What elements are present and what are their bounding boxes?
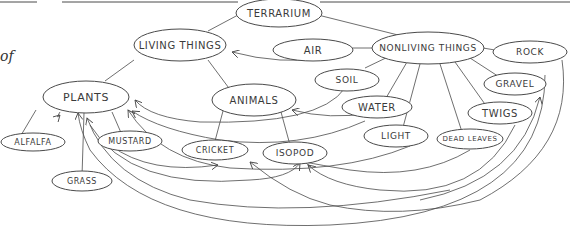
node-alfalfa[interactable]: ALFALFA: [1, 133, 65, 151]
node-plants[interactable]: PLANTS: [43, 81, 129, 113]
node-air[interactable]: AIR: [273, 39, 353, 61]
node-label: MUSTARD: [108, 137, 152, 146]
node-label: ISOPOD: [276, 148, 315, 158]
node-label: LIVING THINGS: [139, 40, 222, 51]
node-nonliving-things[interactable]: NONLIVING THINGS: [372, 32, 484, 64]
node-label: TERRARIUM: [246, 8, 311, 19]
node-isopod[interactable]: ISOPOD: [263, 142, 327, 164]
node-rock[interactable]: ROCK: [493, 41, 567, 63]
concept-map: TERRARIUM LIVING THINGS NONLIVING THINGS…: [0, 0, 570, 237]
node-mustard[interactable]: MUSTARD: [98, 131, 162, 151]
node-gravel[interactable]: GRAVEL: [484, 73, 546, 95]
node-label: ALFALFA: [14, 138, 51, 147]
node-water[interactable]: WATER: [342, 96, 412, 118]
node-label: TWIGS: [481, 108, 518, 119]
node-label: WATER: [358, 102, 396, 113]
node-soil[interactable]: SOIL: [315, 69, 379, 91]
node-living-things[interactable]: LIVING THINGS: [134, 29, 226, 61]
node-label: SOIL: [336, 75, 359, 85]
node-grass[interactable]: GRASS: [52, 171, 112, 191]
node-label: LIGHT: [381, 131, 411, 141]
node-cricket[interactable]: CRICKET: [182, 140, 248, 160]
node-label: AIR: [304, 45, 323, 56]
node-label: ANIMALS: [230, 95, 279, 106]
node-label: GRASS: [67, 177, 97, 186]
node-light[interactable]: LIGHT: [364, 125, 428, 147]
node-twigs[interactable]: TWIGS: [468, 102, 532, 124]
node-label: DEAD LEAVES: [442, 135, 497, 143]
node-label: ROCK: [516, 47, 544, 57]
node-label: CRICKET: [196, 146, 234, 155]
node-terrarium[interactable]: TERRARIUM: [236, 0, 322, 27]
node-dead-leaves[interactable]: DEAD LEAVES: [437, 129, 503, 149]
node-label: PLANTS: [63, 91, 109, 104]
node-animals[interactable]: ANIMALS: [212, 84, 296, 116]
node-label: GRAVEL: [496, 79, 535, 89]
node-label: NONLIVING THINGS: [379, 43, 477, 53]
